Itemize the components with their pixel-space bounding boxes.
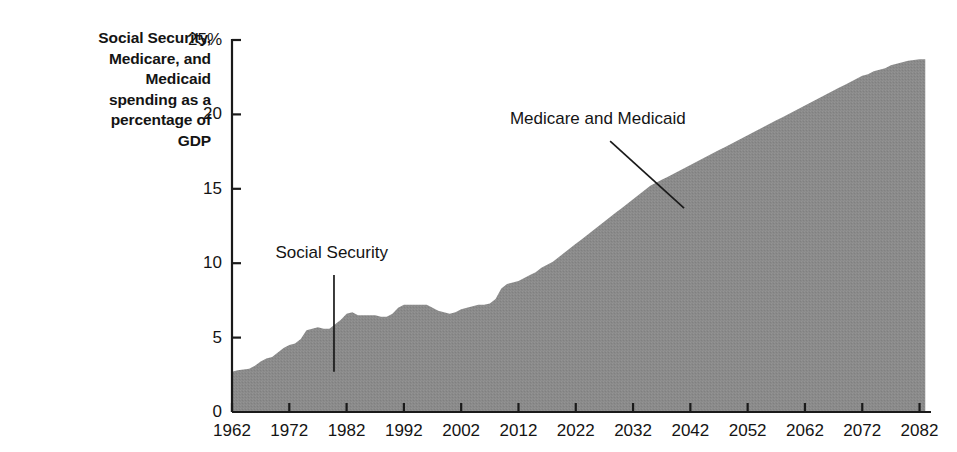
y-axis-tick-label: 20 <box>150 104 222 124</box>
x-axis-tick-label: 2082 <box>901 421 939 441</box>
x-axis-tick-label: 1982 <box>328 421 366 441</box>
x-axis-tick-label: 2042 <box>671 421 709 441</box>
x-axis-tick-label: 1962 <box>213 421 251 441</box>
x-axis-tick-label: 2012 <box>500 421 538 441</box>
area-chart: 0510152025% 1962197219821992200220122022… <box>0 0 957 452</box>
x-axis-tick-label: 1992 <box>385 421 423 441</box>
annotation-label: Medicare and Medicaid <box>510 109 686 129</box>
y-axis-tick-label: 15 <box>150 179 222 199</box>
y-axis-tick-label: 10 <box>150 253 222 273</box>
chart-figure: Social Security, Medicare, and Medicaid … <box>0 0 957 452</box>
x-axis-tick-label: 2052 <box>729 421 767 441</box>
plot-canvas <box>0 0 957 452</box>
x-axis-tick-label: 2002 <box>442 421 480 441</box>
x-axis-tick-label: 2022 <box>557 421 595 441</box>
x-axis-tick-label: 2032 <box>614 421 652 441</box>
x-axis-tick-label: 2072 <box>843 421 881 441</box>
annotation-label: Social Security <box>276 243 388 263</box>
y-axis-tick-label: 25% <box>150 30 222 50</box>
y-axis-tick-label: 0 <box>150 402 222 422</box>
y-axis-tick-label: 5 <box>150 328 222 348</box>
x-axis-tick-label: 1972 <box>270 421 308 441</box>
x-axis-tick-label: 2062 <box>786 421 824 441</box>
